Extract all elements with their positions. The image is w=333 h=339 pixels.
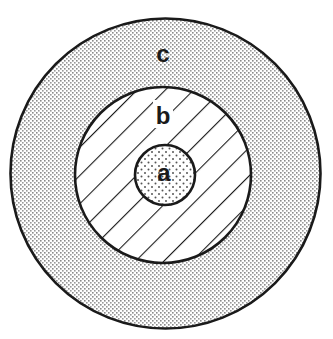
label-a: a <box>157 159 171 186</box>
label-b: b <box>156 102 171 129</box>
label-c: c <box>156 40 169 67</box>
concentric-circles-diagram: c b a <box>0 0 333 339</box>
